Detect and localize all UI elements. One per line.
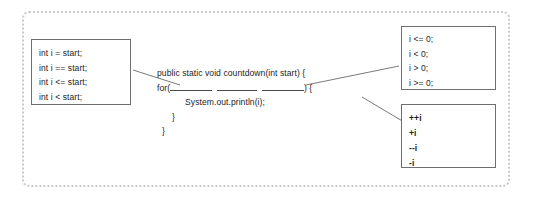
for-header-line: for( ) { (157, 81, 312, 96)
inner-closing-brace: } (157, 110, 312, 125)
worksheet-canvas: int i = start; int i == start; int i <= … (0, 0, 535, 200)
option-init-2[interactable]: int i <= start; (39, 75, 130, 90)
method-signature-line: public static void countdown(int start) … (157, 66, 312, 81)
option-condition-1[interactable]: i < 0; (409, 47, 495, 62)
option-update-3[interactable]: -i (409, 156, 495, 171)
option-update-1[interactable]: +i (409, 126, 495, 141)
initialization-blank[interactable] (170, 90, 212, 91)
option-init-1[interactable]: int i == start; (39, 61, 130, 76)
option-update-0[interactable]: ++i (409, 111, 495, 126)
outer-closing-brace: } (157, 124, 312, 139)
option-init-0[interactable]: int i = start; (39, 46, 130, 61)
for-keyword: for( (157, 83, 170, 93)
option-condition-2[interactable]: i > 0; (409, 61, 495, 76)
option-update-2[interactable]: --i (409, 141, 495, 156)
option-condition-3[interactable]: i >= 0; (409, 76, 495, 91)
blank-gap-2 (257, 83, 262, 93)
condition-blank[interactable] (217, 90, 257, 91)
options-condition-box[interactable]: i <= 0; i < 0; i > 0; i >= 0; (401, 26, 496, 90)
options-update-box[interactable]: ++i +i --i -i (401, 104, 496, 168)
options-initialization-box[interactable]: int i = start; int i == start; int i <= … (31, 39, 131, 105)
blank-gap-1 (212, 83, 217, 93)
option-init-3[interactable]: int i < start; (39, 90, 130, 105)
for-close-paren: ) { (304, 83, 312, 93)
println-line: System.out.println(i); (157, 95, 312, 110)
code-block: public static void countdown(int start) … (157, 66, 312, 139)
option-condition-0[interactable]: i <= 0; (409, 32, 495, 47)
update-blank[interactable] (262, 90, 304, 91)
